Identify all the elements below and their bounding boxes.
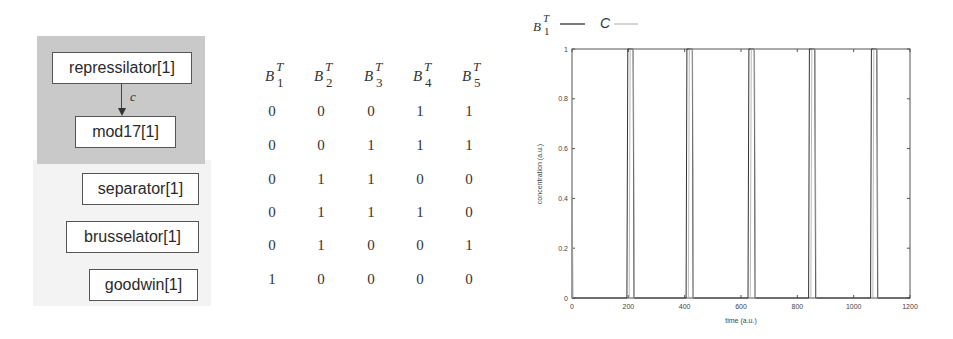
series-line xyxy=(572,198,573,298)
x-axis: 020040060080010001200 xyxy=(570,49,918,310)
y-tick-label: 1 xyxy=(564,46,568,53)
y-tick-label: 0.4 xyxy=(558,195,568,202)
y-axis: 00.20.40.60.81 xyxy=(558,46,910,302)
x-tick-label: 1200 xyxy=(902,303,918,310)
x-tick-label: 0 xyxy=(570,303,574,310)
x-tick-label: 200 xyxy=(622,303,634,310)
plot-frame xyxy=(572,49,910,298)
y-tick-label: 0.2 xyxy=(558,245,568,252)
x-tick-label: 800 xyxy=(791,303,803,310)
x-tick-label: 600 xyxy=(735,303,747,310)
series-lines xyxy=(572,49,910,298)
legend-label-c: C xyxy=(600,15,611,31)
y-tick-label: 0 xyxy=(564,295,568,302)
y-tick-label: 0.6 xyxy=(558,145,568,152)
series-line xyxy=(572,49,910,298)
y-tick-label: 0.8 xyxy=(558,95,568,102)
x-axis-label: time (a.u.) xyxy=(725,317,757,325)
x-tick-label: 1000 xyxy=(846,303,862,310)
concentration-chart: C 00.20.40.60.81 020040060080010001200 t… xyxy=(0,0,953,339)
x-tick-label: 400 xyxy=(679,303,691,310)
y-axis-label: concentration (a.u.) xyxy=(536,144,544,204)
